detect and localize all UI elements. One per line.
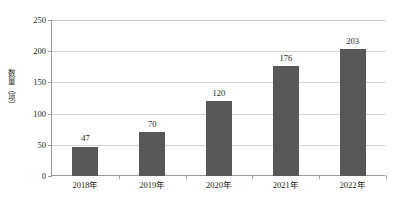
bar-value-label: 176	[279, 54, 292, 63]
bar[interactable]	[206, 101, 232, 176]
x-axis-tick	[319, 175, 320, 179]
y-axis-tick-label: 50	[38, 141, 47, 150]
y-axis-tick-label: 250	[33, 16, 46, 25]
bar-slot: 120	[186, 20, 253, 176]
bar-slot: 176	[252, 20, 319, 176]
bar-value-label: 47	[81, 134, 90, 143]
bar-slot: 203	[319, 20, 386, 176]
bar[interactable]	[72, 147, 98, 176]
x-axis-label: 2018年	[72, 181, 98, 190]
bar[interactable]	[139, 132, 165, 176]
y-axis-tick	[48, 176, 52, 177]
bars-group: 4770120176203	[52, 20, 386, 176]
y-axis-title: 数量（项）	[2, 58, 20, 120]
x-axis-tick	[186, 175, 187, 179]
x-axis-tick	[386, 175, 387, 179]
x-axis-label: 2020年	[206, 181, 232, 190]
y-axis-tick-label: 200	[33, 47, 46, 56]
bar-value-label: 203	[346, 37, 359, 46]
y-axis-tick-label: 150	[33, 78, 46, 87]
x-axis-label: 2019年	[139, 181, 165, 190]
y-axis-tick-label: 100	[33, 109, 46, 118]
y-axis-tick-label: 0	[42, 172, 46, 181]
x-axis-tick	[252, 175, 253, 179]
bar-slot: 70	[119, 20, 186, 176]
x-axis-label: 2022年	[340, 181, 366, 190]
bar[interactable]	[273, 66, 299, 176]
bar-value-label: 120	[213, 89, 226, 98]
bar[interactable]	[340, 49, 366, 176]
x-axis-tick	[119, 175, 120, 179]
x-axis-label: 2021年	[273, 181, 299, 190]
bar-slot: 47	[52, 20, 119, 176]
bar-chart: 数量（项） 050100150200250 4770120176203 2018…	[0, 0, 398, 211]
plot-area: 050100150200250 4770120176203 2018年2019年…	[51, 20, 385, 176]
bar-value-label: 70	[148, 120, 157, 129]
